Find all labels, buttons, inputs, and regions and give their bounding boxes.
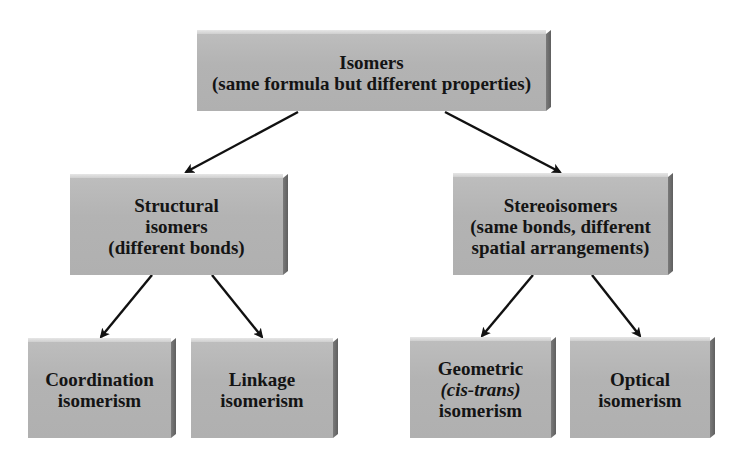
node-structural-line1: Structural — [134, 195, 218, 216]
node-stereo-line3: spatial arrangements) — [472, 237, 650, 258]
node-stereoisomers: Stereoisomers (same bonds, different spa… — [453, 177, 668, 275]
node-optical-isomerism: Optical isomerism — [570, 341, 710, 438]
arrow-structural-to-coordination — [101, 275, 152, 337]
arrow-structural-to-linkage — [212, 275, 262, 337]
arrow-stereo-to-optical — [592, 275, 640, 336]
node-stereo-line1: Stereoisomers — [504, 195, 618, 216]
arrow-isomers-to-stereo — [445, 112, 560, 172]
node-linkage-line1: Linkage — [229, 369, 296, 390]
node-isomers: Isomers (same formula but different prop… — [197, 34, 546, 111]
node-structural-isomers: Structural isomers (different bonds) — [70, 178, 283, 275]
node-geometric-line1: Geometric — [438, 358, 523, 379]
node-optical-line2: isomerism — [598, 390, 681, 411]
node-coordination-line2: isomerism — [58, 390, 141, 411]
node-coordination-line1: Coordination — [45, 369, 154, 390]
node-structural-line2: isomers — [145, 216, 207, 237]
node-isomers-subtitle: (same formula but different properties) — [212, 73, 531, 94]
node-geometric-line2: (cis-trans) — [440, 379, 520, 400]
node-isomers-title: Isomers — [339, 52, 403, 73]
node-structural-line3: (different bonds) — [108, 237, 244, 258]
node-geometric-line3: isomerism — [439, 400, 522, 421]
node-coordination-isomerism: Coordination isomerism — [28, 342, 171, 438]
arrow-isomers-to-structural — [186, 112, 298, 172]
node-geometric-isomerism: Geometric (cis-trans) isomerism — [410, 341, 551, 438]
node-linkage-isomerism: Linkage isomerism — [191, 342, 333, 438]
node-linkage-line2: isomerism — [220, 390, 303, 411]
node-stereo-line2: (same bonds, different — [470, 216, 651, 237]
arrow-stereo-to-geometric — [482, 275, 533, 336]
node-optical-line1: Optical — [610, 369, 670, 390]
